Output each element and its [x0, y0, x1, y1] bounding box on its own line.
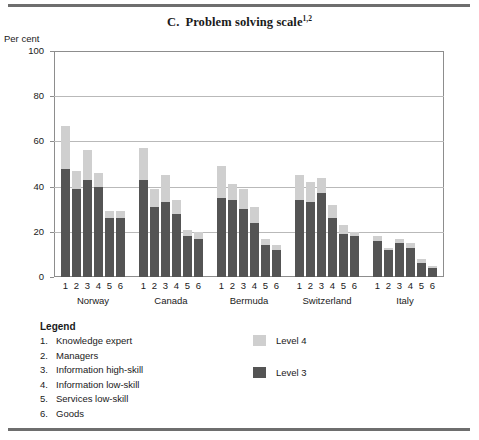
key-level-4: Level 4 — [253, 335, 403, 346]
key-level-3: Level 3 — [253, 367, 403, 378]
x-number-3: 3 — [239, 279, 248, 293]
x-number-4: 4 — [94, 279, 103, 293]
segment-level-4 — [150, 189, 159, 207]
segment-level-3 — [428, 268, 437, 277]
group-label-bermuda: Bermuda — [210, 295, 288, 311]
bar-norway-2 — [72, 171, 81, 277]
x-number-1: 1 — [295, 279, 304, 293]
x-number-1: 1 — [139, 279, 148, 293]
bar-norway-3 — [83, 150, 92, 277]
bar-italy-1 — [373, 236, 382, 277]
bar-canada-4 — [172, 200, 181, 277]
x-number-5: 5 — [339, 279, 348, 293]
y-tickmark-80 — [50, 96, 54, 97]
x-number-5: 5 — [105, 279, 114, 293]
segment-level-3 — [261, 245, 270, 277]
segment-level-3 — [183, 236, 192, 277]
x-number-1: 1 — [217, 279, 226, 293]
segment-level-4 — [306, 182, 315, 202]
x-number-4: 4 — [250, 279, 259, 293]
figure-title-text: Problem solving scale — [185, 15, 302, 29]
bar-bermuda-4 — [250, 207, 259, 277]
bar-italy-2 — [384, 248, 393, 277]
x-numbers-switzerland: 123456 — [288, 279, 366, 293]
x-number-2: 2 — [306, 279, 315, 293]
y-tick-20: 20 — [33, 227, 44, 237]
segment-level-3 — [395, 243, 404, 277]
bar-norway-5 — [105, 211, 114, 277]
x-number-4: 4 — [172, 279, 181, 293]
x-numbers-italy: 123456 — [366, 279, 444, 293]
bottom-rule — [8, 428, 470, 431]
bars — [295, 51, 359, 277]
segment-level-4 — [339, 225, 348, 234]
bars — [217, 51, 281, 277]
x-number-2: 2 — [150, 279, 159, 293]
segment-level-3 — [161, 202, 170, 277]
bar-italy-3 — [395, 239, 404, 277]
key-swatch — [253, 367, 266, 378]
bar-group-bermuda — [210, 51, 288, 277]
x-numbers-canada: 123456 — [132, 279, 210, 293]
legend-item-number: 4. — [40, 378, 56, 393]
segment-level-4 — [183, 230, 192, 237]
segment-level-4 — [72, 171, 81, 189]
key-label: Level 3 — [276, 367, 307, 378]
segment-level-3 — [83, 180, 92, 277]
group-label-norway: Norway — [54, 295, 132, 311]
bar-canada-2 — [150, 189, 159, 277]
x-number-3: 3 — [317, 279, 326, 293]
segment-level-3 — [150, 207, 159, 277]
segment-level-3 — [306, 202, 315, 277]
segment-level-3 — [94, 187, 103, 277]
bar-canada-6 — [194, 232, 203, 277]
segment-level-3 — [350, 236, 359, 277]
bar-canada-5 — [183, 230, 192, 277]
bar-bermuda-3 — [239, 189, 248, 277]
key-swatch — [253, 335, 266, 346]
x-axis-category-numbers: 123456123456123456123456123456 — [54, 279, 444, 293]
segment-level-4 — [317, 178, 326, 194]
y-tick-100: 100 — [28, 46, 44, 56]
legend-item-6: 6.Goods — [40, 407, 290, 422]
y-tickmark-20 — [50, 232, 54, 233]
y-tick-80: 80 — [33, 91, 44, 101]
x-number-5: 5 — [261, 279, 270, 293]
y-tick-60: 60 — [33, 136, 44, 146]
segment-level-4 — [116, 211, 125, 218]
segment-level-4 — [161, 175, 170, 202]
legend-item-label: Services low-skill — [56, 392, 128, 407]
segment-level-3 — [250, 223, 259, 277]
bar-switzerland-3 — [317, 178, 326, 277]
x-number-1: 1 — [373, 279, 382, 293]
legend-item-number: 1. — [40, 334, 56, 349]
segment-level-3 — [328, 218, 337, 277]
y-axis-unit-label: Per cent — [4, 33, 39, 44]
x-number-4: 4 — [328, 279, 337, 293]
segment-level-3 — [239, 209, 248, 277]
bar-bermuda-1 — [217, 166, 226, 277]
legend-item-number: 5. — [40, 392, 56, 407]
bar-group-canada — [132, 51, 210, 277]
segment-level-4 — [250, 207, 259, 223]
legend-item-number: 6. — [40, 407, 56, 422]
x-number-1: 1 — [61, 279, 70, 293]
legend-item-label: Knowledge expert — [56, 334, 132, 349]
x-number-3: 3 — [161, 279, 170, 293]
y-tick-0: 0 — [39, 272, 44, 282]
segment-level-4 — [194, 232, 203, 239]
segment-level-4 — [105, 211, 114, 218]
figure-panel: C.Problem solving scale1,2 Per cent 0204… — [0, 0, 479, 440]
bar-canada-1 — [139, 148, 148, 277]
y-tick-40: 40 — [33, 182, 44, 192]
segment-level-4 — [61, 126, 70, 169]
bar-bermuda-6 — [272, 245, 281, 277]
bar-groups — [54, 51, 444, 277]
segment-level-3 — [295, 200, 304, 277]
y-tickmark-100 — [50, 51, 54, 52]
series-key: Level 4Level 3 — [253, 335, 403, 399]
segment-level-4 — [239, 189, 248, 209]
figure-title: C.Problem solving scale1,2 — [0, 14, 479, 30]
y-axis-tick-labels: 020406080100 — [0, 51, 50, 277]
x-number-6: 6 — [116, 279, 125, 293]
